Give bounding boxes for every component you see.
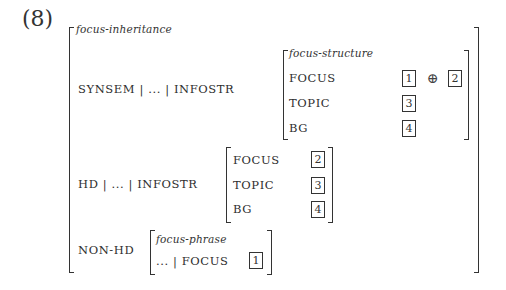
tag-4: 4 (402, 120, 416, 137)
focus-structure-right-bracket (464, 50, 469, 140)
hd-tag-4: 4 (311, 201, 325, 218)
nonhd-right-bracket (267, 230, 272, 275)
oplus-icon: ⊕ (427, 70, 439, 86)
tag-3: 3 (402, 95, 416, 112)
synsem-path: SYNSEM | ... | INFOSTR (78, 82, 234, 96)
tag-2: 2 (448, 70, 462, 87)
feature-bg: BG (289, 121, 308, 135)
outer-left-bracket (69, 27, 74, 273)
example-number: (8) (22, 6, 53, 31)
hd-left-bracket (226, 147, 231, 223)
hd-feature-focus: FOCUS (233, 153, 280, 167)
hd-right-bracket (328, 147, 333, 223)
nonhd-left-bracket (150, 230, 155, 275)
outer-type-label: focus-inheritance (76, 23, 172, 35)
hd-tag-3: 3 (311, 177, 325, 194)
focus-structure-type: focus-structure (289, 47, 373, 59)
tag-1: 1 (402, 70, 416, 87)
nonhd-path: NON-HD (78, 243, 134, 257)
hd-feature-topic: TOPIC (233, 178, 274, 192)
hd-path: HD | ... | INFOSTR (78, 177, 198, 191)
focus-phrase-type: focus-phrase (156, 233, 227, 245)
feature-topic: TOPIC (289, 96, 330, 110)
hd-feature-bg: BG (233, 202, 252, 216)
hd-tag-2: 2 (311, 151, 325, 168)
nonhd-feature-focus: ... | FOCUS (156, 254, 229, 268)
focus-structure-left-bracket (283, 50, 288, 140)
feature-focus: FOCUS (289, 71, 336, 85)
nonhd-tag-1: 1 (249, 252, 263, 269)
outer-right-bracket (474, 27, 479, 273)
